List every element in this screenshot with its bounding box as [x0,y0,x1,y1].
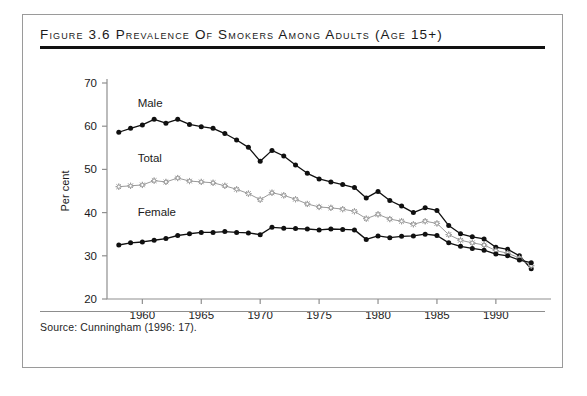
y-axis-tick-label: 70 [84,77,97,89]
series-total [116,175,535,269]
y-axis-tick-label: 30 [84,250,97,262]
y-axis-tick-label: 50 [84,163,97,175]
y-axis-tick-label: 20 [84,293,97,305]
figure-frame: Figure 3.6 Prevalence of Smokers among A… [22,14,563,368]
footer-divider [40,311,545,312]
axis-lines [107,79,551,299]
line-chart: 2030405060701960196519701975198019851990… [23,15,564,369]
series-label-total: Total [138,152,162,164]
y-axis-tick-label: 60 [84,120,97,132]
y-axis-title: Per cent [59,171,71,212]
series-female [116,225,533,265]
series-label-male: Male [138,97,163,109]
source-note: Source: Cunningham (1996: 17). [40,321,197,333]
y-axis-tick-label: 40 [84,207,97,219]
series-label-female: Female [138,206,176,218]
